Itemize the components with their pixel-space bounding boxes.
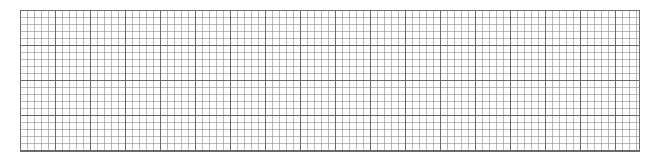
canvas <box>0 0 658 157</box>
graph-paper-grid <box>20 10 640 152</box>
